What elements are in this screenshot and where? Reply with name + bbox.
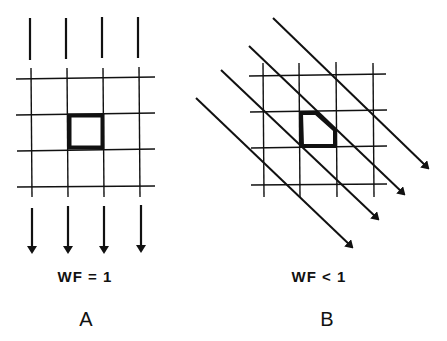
highlighted-cell-a bbox=[70, 116, 103, 148]
caption-a: WF = 1 bbox=[58, 268, 113, 285]
panel-a: WF = 1 A bbox=[16, 17, 155, 330]
panel-label-b: B bbox=[320, 308, 333, 330]
grid-a bbox=[16, 67, 155, 197]
grid-b bbox=[249, 62, 387, 197]
caption-b: WF < 1 bbox=[292, 268, 347, 285]
panel-label-a: A bbox=[79, 308, 93, 330]
outgoing-flow-arrows-a bbox=[32, 205, 141, 252]
diagram-canvas: WF = 1 A WF < 1 B bbox=[0, 0, 447, 341]
incoming-flow-lines-a bbox=[30, 17, 138, 60]
highlighted-cell-b bbox=[301, 113, 335, 146]
panel-b: WF < 1 B bbox=[196, 18, 428, 330]
diagonal-flow-arrows-b bbox=[196, 18, 428, 247]
